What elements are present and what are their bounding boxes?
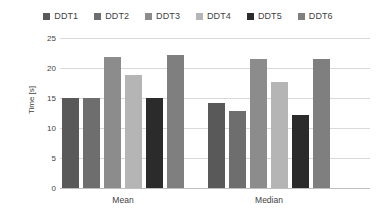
chart-legend: DDT1 DDT2 DDT3 DDT4 DDT5 DDT6 (0, 6, 376, 26)
legend-label: DDT2 (105, 12, 129, 21)
legend-item-ddt6[interactable]: DDT6 (298, 12, 333, 21)
legend-label: DDT5 (258, 12, 282, 21)
bar-ddt6-mean (167, 55, 184, 189)
legend-item-ddt5[interactable]: DDT5 (247, 12, 282, 21)
legend-label: DDT4 (207, 12, 231, 21)
bar-ddt5-median (292, 115, 309, 189)
y-axis-tick-labels: 0510152025 (28, 0, 56, 222)
legend-item-ddt2[interactable]: DDT2 (94, 12, 129, 21)
legend-item-ddt4[interactable]: DDT4 (196, 12, 231, 21)
y-axis-tick-label: 5 (32, 155, 56, 163)
y-axis-tick-label: 10 (32, 125, 56, 133)
y-axis-tick-label: 0 (32, 185, 56, 193)
x-axis-category-label: Median (229, 196, 309, 205)
bars-layer (60, 39, 370, 189)
bar-ddt1-mean (62, 98, 79, 189)
bar-ddt6-median (313, 59, 330, 189)
bar-ddt1-median (208, 103, 225, 189)
y-axis-tick-label: 25 (32, 35, 56, 43)
legend-label: DDT6 (309, 12, 333, 21)
bar-ddt4-mean (125, 75, 142, 189)
x-axis-line (60, 188, 370, 189)
legend-swatch-icon (196, 13, 203, 20)
bar-ddt2-median (229, 111, 246, 189)
bar-ddt4-median (271, 82, 288, 189)
legend-swatch-icon (94, 13, 101, 20)
y-axis-tick-label: 20 (32, 65, 56, 73)
plot-area (60, 39, 370, 189)
y-axis-tick-label: 15 (32, 95, 56, 103)
bar-ddt3-mean (104, 57, 121, 189)
x-axis-category-label: Mean (83, 196, 163, 205)
bar-ddt5-mean (146, 98, 163, 189)
legend-label: DDT1 (54, 12, 78, 21)
bar-ddt2-mean (83, 98, 100, 189)
legend-label: DDT3 (156, 12, 180, 21)
legend-item-ddt3[interactable]: DDT3 (145, 12, 180, 21)
bar-ddt3-median (250, 59, 267, 189)
bar-chart: DDT1 DDT2 DDT3 DDT4 DDT5 DDT6 Time [s] 0… (0, 0, 376, 222)
legend-swatch-icon (247, 13, 254, 20)
legend-swatch-icon (145, 13, 152, 20)
legend-swatch-icon (298, 13, 305, 20)
